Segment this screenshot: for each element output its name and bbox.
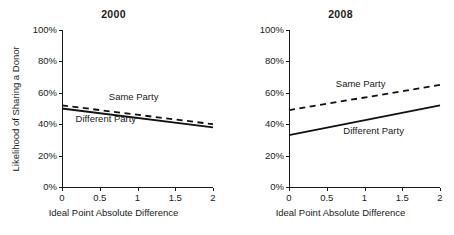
x-tick-label: 1 — [352, 193, 378, 203]
series-annotation: Different Party — [343, 126, 404, 136]
y-tick-label: 100% — [33, 25, 57, 35]
y-tick-label: 60% — [38, 88, 57, 98]
x-tick-label: 1.5 — [162, 193, 188, 203]
y-tick-label: 0% — [43, 182, 57, 192]
x-tick-label: 0 — [276, 193, 302, 203]
y-tick-label: 40% — [265, 119, 284, 129]
chart-panel-2008: 2008 0%20%40%60%80%100% 00.511.52 Same P… — [227, 0, 454, 235]
x-axis-title: Ideal Point Absolute Difference — [227, 208, 454, 218]
x-tick-label: 0 — [49, 193, 75, 203]
x-tick-label: 1 — [125, 193, 151, 203]
x-tick-label: 2 — [427, 193, 453, 203]
plot-area-2008 — [227, 0, 454, 235]
y-tick-label: 0% — [270, 182, 284, 192]
x-tick-label: 0.5 — [314, 193, 340, 203]
y-tick-label: 100% — [260, 25, 284, 35]
x-tick-label: 2 — [200, 193, 226, 203]
x-tick-label: 1.5 — [389, 193, 415, 203]
series-annotation: Same Party — [336, 79, 386, 89]
axis-spine — [290, 30, 441, 188]
y-tick-label: 20% — [265, 151, 284, 161]
x-axis-title: Ideal Point Absolute Difference — [0, 208, 227, 218]
y-tick-label: 40% — [38, 119, 57, 129]
y-tick-label: 80% — [265, 56, 284, 66]
y-tick-label: 20% — [38, 151, 57, 161]
series-annotation: Different Party — [76, 114, 137, 124]
y-tick-label: 60% — [265, 88, 284, 98]
series-annotation: Same Party — [109, 92, 159, 102]
y-tick-label: 80% — [38, 56, 57, 66]
x-tick-label: 0.5 — [87, 193, 113, 203]
figure-root: 2000 Likelihood of Sharing a Donor 0%20%… — [0, 0, 454, 235]
chart-panel-2000: 2000 Likelihood of Sharing a Donor 0%20%… — [0, 0, 227, 235]
